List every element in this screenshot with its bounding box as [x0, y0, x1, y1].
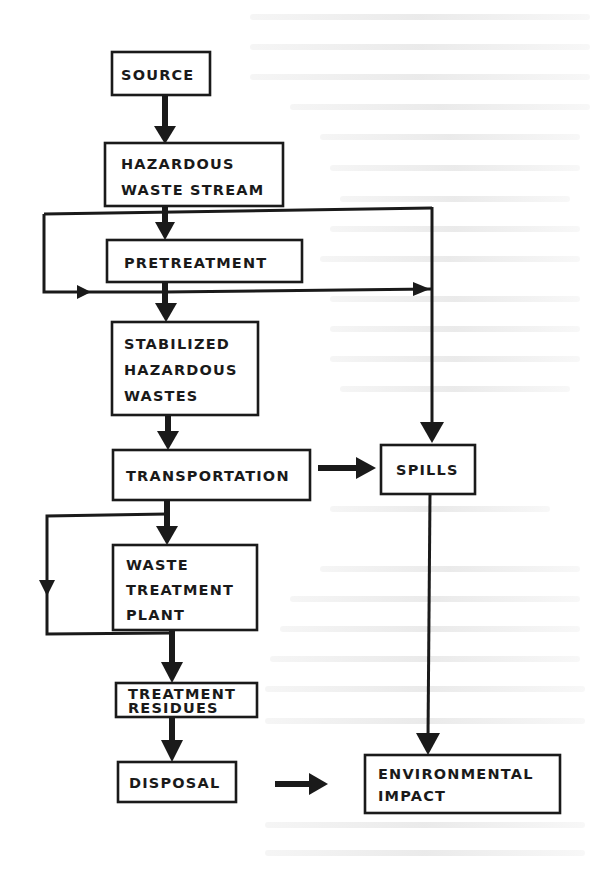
arrowhead-down-icon [157, 431, 179, 450]
arrowhead-down-icon [154, 126, 176, 144]
arrowhead-down-icon [416, 733, 440, 755]
svg-text:STABILIZED: STABILIZED [124, 336, 230, 352]
node-environmental-impact: ENVIRONMENTAL IMPACT [365, 755, 560, 813]
arrowhead-down-icon [420, 422, 444, 443]
arrowhead-down-icon [155, 222, 175, 240]
svg-text:WASTE: WASTE [126, 557, 189, 573]
svg-text:TRANSPORTATION: TRANSPORTATION [126, 468, 290, 484]
svg-text:WASTES: WASTES [124, 388, 198, 404]
node-disposal: DISPOSAL [118, 762, 236, 802]
split-line-top [44, 208, 432, 214]
svg-text:HAZARDOUS: HAZARDOUS [124, 362, 238, 378]
svg-text:PRETREATMENT: PRETREATMENT [124, 255, 267, 271]
svg-text:ENVIRONMENTAL: ENVIRONMENTAL [378, 766, 534, 782]
svg-text:RESIDUES: RESIDUES [128, 700, 219, 716]
node-source: SOURCE [112, 52, 210, 95]
arrowhead-down-icon [161, 740, 183, 762]
arrowhead-down-icon [156, 526, 178, 545]
node-hazardous-waste-stream: HAZARDOUS WASTE STREAM [105, 143, 283, 206]
node-label: SOURCE [121, 67, 194, 83]
svg-text:WASTE STREAM: WASTE STREAM [121, 182, 264, 198]
svg-text:SPILLS: SPILLS [396, 462, 459, 478]
svg-text:IMPACT: IMPACT [378, 788, 446, 804]
svg-text:DISPOSAL: DISPOSAL [129, 775, 220, 791]
node-waste-treatment-plant: WASTE TREATMENT PLANT [113, 545, 257, 630]
flowchart: SOURCE HAZARDOUS WASTE STREAM PRETREATME… [0, 0, 590, 869]
svg-text:PLANT: PLANT [126, 607, 185, 623]
arrowhead-right-icon [356, 457, 376, 479]
node-stabilized-hazardous-wastes: STABILIZED HAZARDOUS WASTES [112, 322, 258, 415]
arrowhead-down-icon [161, 662, 183, 683]
arrowhead-right-icon [309, 773, 328, 795]
arrowhead-right-icon [413, 282, 430, 296]
node-spills: SPILLS [381, 445, 475, 494]
arrowhead-down-icon [155, 303, 177, 322]
node-pretreatment: PRETREATMENT [107, 240, 302, 282]
arrowhead-down-icon [39, 580, 55, 596]
line-spills-to-impact [428, 494, 430, 737]
arrowhead-right-icon [77, 285, 91, 299]
node-transportation: TRANSPORTATION [113, 450, 310, 500]
svg-text:TREATMENT: TREATMENT [126, 582, 234, 598]
node-treatment-residues: TREATMENT RESIDUES [116, 683, 257, 717]
svg-text:HAZARDOUS: HAZARDOUS [121, 156, 235, 172]
